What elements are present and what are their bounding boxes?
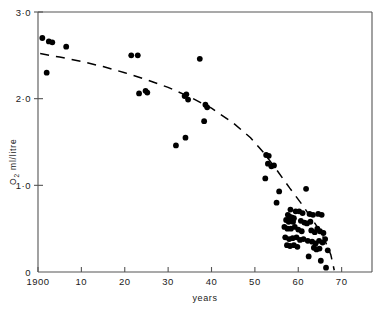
data-point bbox=[299, 228, 305, 234]
data-point bbox=[288, 207, 294, 213]
data-point bbox=[39, 35, 45, 41]
data-point bbox=[262, 176, 268, 182]
y-tick-label-1·0: 1·0 bbox=[16, 180, 31, 191]
data-point bbox=[197, 56, 203, 62]
y-tick-label-2·0: 2·0 bbox=[16, 93, 31, 104]
data-point bbox=[325, 247, 331, 253]
data-point bbox=[136, 91, 142, 97]
data-point bbox=[135, 52, 141, 58]
x-tick-label-50: 50 bbox=[249, 276, 261, 287]
data-point bbox=[310, 212, 316, 218]
data-point bbox=[173, 143, 179, 149]
data-point bbox=[323, 265, 329, 271]
chart-canvas: 190010203040506070 01·02·03·0 years O2 m… bbox=[0, 0, 385, 311]
data-point bbox=[303, 186, 309, 192]
data-point bbox=[183, 91, 189, 97]
data-point bbox=[44, 70, 50, 76]
data-point bbox=[128, 52, 134, 58]
oxygen-decline-scatter-chart: 190010203040506070 01·02·03·0 years O2 m… bbox=[0, 0, 385, 311]
data-point bbox=[266, 153, 272, 159]
y-tick-label-0: 0 bbox=[25, 267, 31, 278]
x-tick-label-20: 20 bbox=[119, 276, 131, 287]
svg-text:O2 ml/litre: O2 ml/litre bbox=[8, 139, 20, 185]
data-point bbox=[274, 200, 280, 206]
x-tick-label-30: 30 bbox=[162, 276, 174, 287]
data-point bbox=[294, 244, 300, 250]
chart-background bbox=[0, 0, 385, 311]
data-point bbox=[183, 135, 189, 141]
data-point bbox=[201, 118, 207, 124]
data-point bbox=[185, 97, 191, 103]
data-point bbox=[308, 219, 314, 225]
data-point bbox=[317, 246, 323, 252]
data-point bbox=[49, 39, 55, 45]
x-tick-label-70: 70 bbox=[336, 276, 348, 287]
data-point bbox=[271, 163, 277, 169]
y-tick-label-3·0: 3·0 bbox=[16, 7, 31, 18]
data-point bbox=[322, 236, 328, 242]
x-axis-title: years bbox=[192, 293, 217, 303]
y-axis-title-rest: ml/litre bbox=[8, 139, 18, 174]
x-tick-label-60: 60 bbox=[292, 276, 304, 287]
x-tick-label-1900: 1900 bbox=[26, 276, 49, 287]
y-axis-title: O2 ml/litre bbox=[8, 139, 20, 185]
data-point bbox=[306, 254, 312, 260]
data-point bbox=[319, 212, 325, 218]
data-point bbox=[318, 258, 324, 264]
data-point bbox=[321, 230, 327, 236]
data-point bbox=[290, 219, 296, 225]
y-axis-title-main: O bbox=[8, 178, 18, 185]
x-tick-label-40: 40 bbox=[206, 276, 218, 287]
x-tick-label-10: 10 bbox=[76, 276, 88, 287]
data-point bbox=[63, 44, 69, 50]
data-point bbox=[204, 104, 210, 110]
data-point bbox=[300, 210, 306, 216]
data-point bbox=[276, 189, 282, 195]
data-point bbox=[144, 90, 150, 96]
